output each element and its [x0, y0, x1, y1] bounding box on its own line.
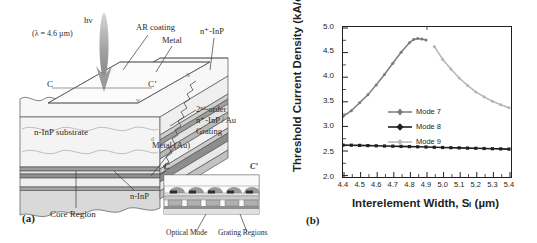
- y-tick-2: 3.0: [312, 121, 334, 130]
- inset-cross-section: [164, 175, 260, 214]
- y-tick-3: 3.5: [312, 96, 334, 105]
- chart-legend: Mode 7 Mode 8: [387, 105, 441, 150]
- y-tick-6: 5.0: [312, 22, 334, 31]
- y-tick-4: 4.0: [312, 71, 334, 80]
- legend-label-mode-7: Mode 7: [416, 107, 441, 116]
- y-tick-0: 2.0: [312, 172, 334, 181]
- label-grating-line2: n⁺-InP / Au: [196, 116, 236, 125]
- y-axis-label-text: Threshold Current Density (kA/cm²): [291, 0, 303, 172]
- label-dim-w: w: [136, 97, 140, 103]
- legend-symbol-mode-9: [387, 137, 413, 147]
- label-inset-c-prime: C’: [250, 163, 258, 171]
- label-n-inp: n-InP: [130, 192, 149, 201]
- plot-curves: [343, 27, 511, 177]
- label-cut-c-prime: C’: [148, 80, 157, 89]
- label-cut-c: C: [47, 80, 53, 89]
- y-tick-1: 2.5: [312, 147, 334, 156]
- panel-b-tag: (b): [306, 214, 319, 226]
- label-optical-mode: Optical Mode: [166, 229, 207, 237]
- panel-b-plot: Threshold Current Density (kA/cm²) 5.0 4…: [278, 0, 537, 243]
- legend-item-mode-9[interactable]: Mode 9: [387, 135, 441, 148]
- label-dim-d: d: [151, 136, 154, 142]
- panel-a-schematic: hν (λ = 4.6 µm) AR coating Metal n⁺-InP …: [0, 0, 278, 243]
- label-dim-s: Sₗ: [186, 72, 190, 78]
- legend-symbol-mode-7: [387, 107, 413, 117]
- y-tick-5: 4.5: [312, 46, 334, 55]
- x-axis-label: Interelement Width, Sₗ (µm): [318, 196, 533, 210]
- label-hv: hν: [84, 16, 93, 25]
- label-grating-line3: Grating: [196, 127, 222, 136]
- label-metal-top: Metal: [162, 36, 182, 45]
- label-core-region: Core Region: [50, 210, 96, 219]
- x-tick-10: 5.4: [499, 180, 519, 189]
- figure-container: hν (λ = 4.6 µm) AR coating Metal n⁺-InP …: [0, 0, 537, 243]
- legend-label-mode-9: Mode 9: [416, 137, 441, 146]
- legend-label-mode-8: Mode 8: [416, 122, 441, 131]
- panel-a-tag: (a): [22, 212, 35, 224]
- legend-item-mode-8[interactable]: Mode 8: [387, 120, 441, 133]
- label-metal-au: Metal (Au): [152, 141, 190, 150]
- label-inset-c: C: [164, 163, 169, 171]
- legend-symbol-mode-8: [387, 122, 413, 132]
- label-ar-coating: AR coating: [136, 23, 175, 32]
- label-wavelength: (λ = 4.6 µm): [32, 30, 73, 38]
- legend-item-mode-7[interactable]: Mode 7: [387, 105, 441, 118]
- label-grating-regions: Grating Regions: [218, 229, 267, 237]
- label-grating-line1: 2ⁿᵈ-order: [196, 105, 226, 114]
- y-axis-label: Threshold Current Density (kA/cm²): [291, 0, 303, 172]
- series-mode-9: [433, 45, 511, 109]
- label-substrate: n-InP substrate: [34, 128, 88, 137]
- plot-area: Mode 7 Mode 8: [342, 26, 512, 178]
- label-n-plus-inp: n⁺-InP: [200, 27, 224, 36]
